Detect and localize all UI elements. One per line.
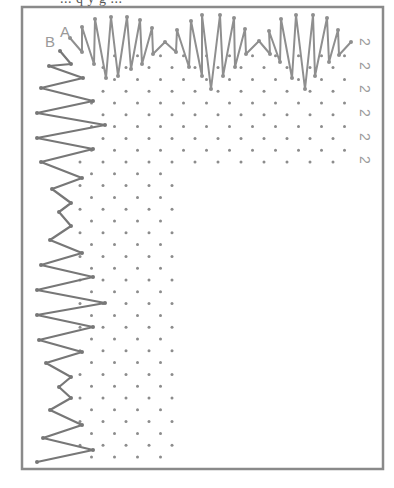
grid-dot bbox=[240, 66, 243, 69]
stitch-knot bbox=[69, 62, 73, 66]
grid-dot bbox=[90, 314, 93, 317]
grid-dot bbox=[113, 290, 116, 293]
grid-dot bbox=[343, 149, 346, 152]
grid-dot bbox=[79, 326, 82, 329]
grid-dot bbox=[159, 408, 162, 411]
stitch-knot bbox=[187, 65, 191, 69]
grid-dot bbox=[136, 125, 139, 128]
grid-dot bbox=[90, 290, 93, 293]
stitch-knot bbox=[325, 16, 329, 20]
grid-dot bbox=[113, 432, 116, 435]
grid-dot bbox=[286, 161, 289, 164]
stitch-knot bbox=[200, 13, 204, 17]
grid-dot bbox=[286, 66, 289, 69]
grid-dot bbox=[136, 267, 139, 270]
grid-dot bbox=[136, 196, 139, 199]
grid-dot bbox=[286, 90, 289, 93]
stitch-knot bbox=[69, 224, 73, 228]
stitch-knot bbox=[303, 87, 307, 91]
grid-dot bbox=[159, 172, 162, 175]
stitch-knot bbox=[69, 201, 73, 205]
grid-dot bbox=[240, 137, 243, 140]
grid-dot bbox=[228, 149, 231, 152]
stitch-knot bbox=[91, 325, 95, 329]
grid-dot bbox=[90, 456, 93, 459]
stitch-knot bbox=[48, 238, 52, 242]
grid-dot bbox=[148, 208, 151, 211]
grid-dot bbox=[102, 420, 105, 423]
grid-dot bbox=[148, 349, 151, 352]
stitch-knot bbox=[125, 15, 129, 19]
grid-dot bbox=[102, 113, 105, 116]
stitch-knot bbox=[140, 62, 144, 66]
grid-dot bbox=[136, 149, 139, 152]
grid-dot bbox=[159, 78, 162, 81]
grid-dot bbox=[343, 125, 346, 128]
grid-dot bbox=[125, 113, 128, 116]
grid-dot bbox=[194, 113, 197, 116]
stitch-diagram: A B 222222 bbox=[0, 0, 394, 488]
grid-dot bbox=[297, 54, 300, 57]
grid-dot bbox=[228, 78, 231, 81]
grid-dot bbox=[343, 78, 346, 81]
grid-dot bbox=[332, 161, 335, 164]
grid-dot bbox=[251, 78, 254, 81]
grid-dot bbox=[171, 255, 174, 258]
grid-dot bbox=[102, 326, 105, 329]
grid-dot bbox=[90, 432, 93, 435]
grid-dot bbox=[171, 349, 174, 352]
grid-dot bbox=[263, 90, 266, 93]
grid-dot bbox=[171, 279, 174, 282]
stitch-knot bbox=[233, 65, 237, 69]
stitch-knot bbox=[327, 60, 331, 64]
stitch-knot bbox=[279, 17, 283, 21]
stitch-knot bbox=[313, 74, 317, 78]
grid-dot bbox=[125, 397, 128, 400]
stitch-knot bbox=[35, 313, 39, 317]
grid-dot bbox=[102, 231, 105, 234]
label-b: B bbox=[45, 33, 55, 50]
grid-dot bbox=[148, 373, 151, 376]
grid-dot bbox=[171, 302, 174, 305]
grid-dot bbox=[309, 161, 312, 164]
stitch-knot bbox=[311, 13, 315, 17]
grid-dot bbox=[205, 78, 208, 81]
grid-dot bbox=[125, 349, 128, 352]
grid-dot bbox=[113, 78, 116, 81]
grid-dot bbox=[309, 137, 312, 140]
grid-dot bbox=[79, 302, 82, 305]
stitch-knot bbox=[39, 86, 43, 90]
grid-dot bbox=[113, 385, 116, 388]
grid-dot bbox=[182, 102, 185, 105]
dot-grid bbox=[79, 54, 347, 458]
grid-dot bbox=[148, 420, 151, 423]
grid-dot bbox=[102, 444, 105, 447]
stitch-knot bbox=[41, 436, 45, 440]
grid-dot bbox=[194, 90, 197, 93]
stitch-knot bbox=[232, 16, 236, 20]
stitch-knot bbox=[129, 67, 133, 71]
grid-dot bbox=[205, 102, 208, 105]
stitch-knot bbox=[80, 350, 84, 354]
grid-dot bbox=[102, 208, 105, 211]
grid-dot bbox=[205, 149, 208, 152]
grid-dot bbox=[136, 102, 139, 105]
grid-dot bbox=[320, 102, 323, 105]
grid-dot bbox=[148, 326, 151, 329]
grid-dot bbox=[228, 125, 231, 128]
grid-dot bbox=[125, 184, 128, 187]
grid-dot bbox=[263, 137, 266, 140]
grid-dot bbox=[263, 113, 266, 116]
stitch-knot bbox=[103, 123, 107, 127]
stitch-knot bbox=[116, 74, 120, 78]
stitch-knot bbox=[337, 53, 341, 57]
grid-dot bbox=[102, 161, 105, 164]
row-numbers: 222222 bbox=[357, 38, 373, 164]
stitch-knot bbox=[267, 29, 271, 33]
stitch-knot bbox=[174, 50, 178, 54]
grid-dot bbox=[113, 267, 116, 270]
grid-dot bbox=[79, 184, 82, 187]
grid-dot bbox=[320, 149, 323, 152]
grid-dot bbox=[286, 137, 289, 140]
grid-dot bbox=[102, 137, 105, 140]
